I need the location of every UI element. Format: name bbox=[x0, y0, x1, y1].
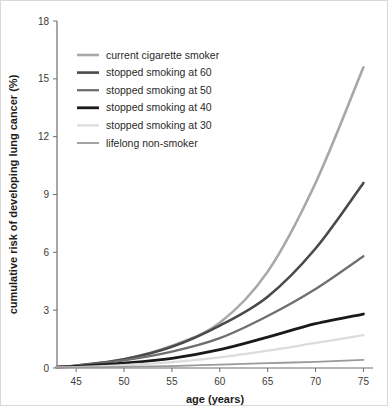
line-chart: 0369121518 45505560657075 current cigare… bbox=[1, 1, 388, 406]
y-tick-label: 9 bbox=[43, 189, 49, 200]
y-tick-label: 0 bbox=[43, 363, 49, 374]
x-tick-label: 75 bbox=[358, 376, 370, 387]
y-tick-label: 3 bbox=[43, 305, 49, 316]
x-tick-label: 55 bbox=[166, 376, 178, 387]
y-tick-label: 18 bbox=[38, 16, 50, 27]
chart-figure: 0369121518 45505560657075 current cigare… bbox=[0, 0, 388, 406]
y-axis-ticks: 0369121518 bbox=[38, 16, 57, 374]
y-tick-label: 12 bbox=[38, 131, 50, 142]
legend-label: stopped smoking at 40 bbox=[106, 101, 212, 113]
y-tick-label: 15 bbox=[38, 73, 50, 84]
x-tick-label: 50 bbox=[118, 376, 130, 387]
legend-label: stopped smoking at 30 bbox=[106, 119, 212, 131]
y-axis-title: cumulative risk of developing lung cance… bbox=[7, 74, 19, 314]
x-tick-label: 70 bbox=[310, 376, 322, 387]
legend-label: stopped smoking at 60 bbox=[106, 66, 212, 78]
x-tick-label: 65 bbox=[262, 376, 274, 387]
x-tick-label: 60 bbox=[214, 376, 226, 387]
y-tick-label: 6 bbox=[43, 247, 49, 258]
legend-label: stopped smoking at 50 bbox=[106, 84, 212, 96]
x-axis-ticks: 45505560657075 bbox=[71, 368, 370, 387]
chart-legend: current cigarette smokerstopped smoking … bbox=[77, 49, 220, 149]
legend-label: current cigarette smoker bbox=[106, 49, 220, 61]
legend-label: lifelong non-smoker bbox=[106, 137, 198, 149]
x-axis-title: age (years) bbox=[186, 393, 244, 405]
x-tick-label: 45 bbox=[71, 376, 83, 387]
series-line bbox=[57, 183, 363, 367]
